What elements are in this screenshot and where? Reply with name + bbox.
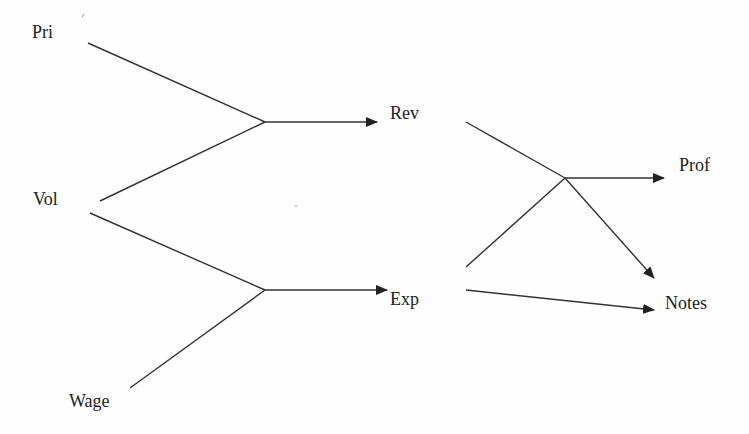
- edge-vol-to-junction-2: [90, 213, 265, 290]
- edge-pri-to-junction-1: [88, 43, 265, 122]
- arrow-junction-3-to-notes: [565, 178, 654, 278]
- node-wage: Wage: [69, 392, 110, 410]
- diagram-edges: [0, 0, 749, 434]
- scan-artifact-dot: [295, 205, 297, 207]
- node-pri: Pri: [32, 23, 53, 41]
- edge-wage-to-junction-2: [130, 290, 265, 388]
- node-rev: Rev: [390, 104, 419, 122]
- scan-artifact-mark: [82, 14, 84, 17]
- edge-exp-to-junction-3: [466, 178, 565, 267]
- node-vol: Vol: [33, 190, 58, 208]
- node-notes: Notes: [665, 294, 707, 312]
- node-exp: Exp: [390, 290, 419, 308]
- edge-rev-to-junction-3: [466, 122, 565, 178]
- arrow-exp-to-notes: [466, 290, 654, 310]
- node-prof: Prof: [679, 156, 710, 174]
- diagram-canvas: Pri Vol Wage Rev Exp Prof Notes: [0, 0, 749, 434]
- edge-vol-to-junction-1: [100, 122, 265, 201]
